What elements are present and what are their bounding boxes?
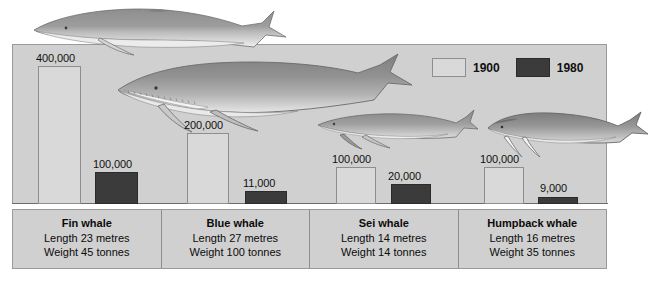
bar-fin-1980[interactable]	[95, 172, 138, 204]
bar-value-blue-1900: 200,000	[184, 119, 223, 131]
species-name-fin-whale: Fin whale	[13, 216, 161, 231]
bar-value-sei-1980: 20,000	[388, 170, 421, 182]
species-weight-humpback-whale: Weight 35 tonnes	[459, 245, 607, 259]
species-length-sei-whale: Length 14 metres	[310, 231, 458, 245]
species-weight-sei-whale: Weight 14 tonnes	[310, 245, 458, 259]
bar-value-fin-1980: 100,000	[93, 158, 132, 170]
species-length-blue-whale: Length 27 metres	[162, 231, 310, 245]
humpback-whale-illustration	[478, 106, 648, 158]
legend-label-1900: 1900	[473, 61, 500, 75]
species-length-humpback-whale: Length 16 metres	[459, 231, 607, 245]
legend-label-1980: 1980	[557, 61, 584, 75]
bar-humpback-1900[interactable]	[484, 167, 524, 204]
legend-swatch-1980	[516, 58, 550, 77]
bar-value-fin-1900: 400,000	[36, 52, 75, 64]
species-cell-sei-whale: Sei whale Length 14 metres Weight 14 ton…	[310, 210, 459, 268]
bar-value-blue-1980: 11,000	[243, 177, 275, 189]
species-weight-fin-whale: Weight 45 tonnes	[13, 245, 161, 259]
species-length-fin-whale: Length 23 metres	[13, 231, 161, 245]
species-name-sei-whale: Sei whale	[310, 216, 458, 231]
bar-sei-1900[interactable]	[336, 167, 376, 204]
bar-blue-1900[interactable]	[187, 133, 229, 204]
whale-population-infographic: 1900 1980 400,000 100,000 200,000 11,000…	[0, 0, 648, 284]
species-cell-blue-whale: Blue whale Length 27 metres Weight 100 t…	[162, 210, 311, 268]
bar-sei-1980[interactable]	[391, 184, 431, 204]
bar-fin-1900[interactable]	[38, 66, 81, 204]
bar-humpback-1980[interactable]	[538, 197, 578, 204]
bar-value-humpback-1980: 9,000	[540, 182, 567, 194]
species-cell-humpback-whale: Humpback whale Length 16 metres Weight 3…	[459, 210, 607, 268]
sei-whale-illustration	[314, 108, 479, 150]
bar-value-humpback-1900: 100,000	[480, 153, 519, 165]
bar-blue-1980[interactable]	[245, 191, 287, 204]
species-cell-fin-whale: Fin whale Length 23 metres Weight 45 ton…	[13, 210, 162, 268]
species-name-blue-whale: Blue whale	[162, 216, 310, 231]
species-name-humpback-whale: Humpback whale	[459, 216, 607, 231]
legend-swatch-1900	[432, 58, 466, 77]
species-label-row: Fin whale Length 23 metres Weight 45 ton…	[12, 209, 607, 269]
legend: 1900 1980	[432, 58, 592, 77]
bar-value-sei-1900: 100,000	[332, 153, 371, 165]
species-weight-blue-whale: Weight 100 tonnes	[162, 245, 310, 259]
fin-whale-illustration	[28, 0, 293, 58]
